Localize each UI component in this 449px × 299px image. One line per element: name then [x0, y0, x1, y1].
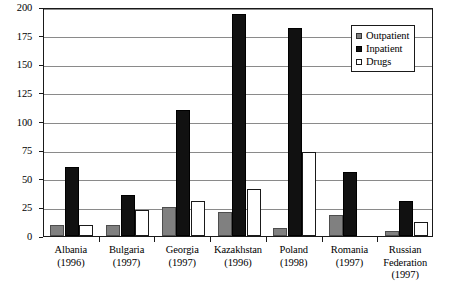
bar-drugs-russian-federation: [414, 222, 428, 236]
category-name: Georgia: [166, 244, 199, 255]
category-name: Kazakhstan: [214, 244, 262, 255]
bar-outpatient-russian-federation: [385, 231, 399, 236]
category-name: Russian Federation: [383, 244, 427, 268]
legend-swatch-inpatient-icon: [356, 46, 362, 52]
bar-drugs-bulgaria: [135, 210, 149, 236]
y-axis-tick-label: 150: [0, 60, 32, 70]
bar-drugs-poland: [302, 152, 316, 236]
y-axis-tick-label: 25: [0, 203, 32, 213]
gridline: [44, 9, 432, 10]
bar-chart: 0255075100125150175200 Albania(1996)Bulg…: [0, 0, 449, 299]
bar-outpatient-romania: [329, 215, 343, 236]
y-axis-tick-label: 175: [0, 32, 32, 42]
y-axis-tick-label: 200: [0, 3, 32, 13]
y-axis-tick-label: 100: [0, 118, 32, 128]
x-axis-tick-mark: [377, 237, 378, 242]
bar-drugs-georgia: [191, 201, 205, 236]
x-axis-tick-mark: [99, 237, 100, 242]
legend-item-outpatient: Outpatient: [356, 29, 409, 42]
x-axis-tick-mark: [154, 237, 155, 242]
x-axis-tick-mark: [322, 237, 323, 242]
y-axis-tick-label: 75: [0, 146, 32, 156]
legend-swatch-outpatient-icon: [356, 33, 362, 39]
category-name: Albania: [55, 244, 88, 255]
bar-outpatient-georgia: [162, 207, 176, 236]
bar-outpatient-poland: [273, 228, 287, 236]
category-name: Bulgaria: [109, 244, 144, 255]
legend-item-inpatient: Inpatient: [356, 42, 409, 55]
bar-drugs-albania: [79, 225, 93, 236]
legend-label: Outpatient: [366, 30, 409, 41]
y-axis-tick-label: 125: [0, 89, 32, 99]
bar-inpatient-poland: [288, 28, 302, 236]
bar-outpatient-kazakhstan: [218, 212, 232, 236]
category-year: (1997): [371, 269, 439, 282]
legend: OutpatientInpatientDrugs: [351, 25, 415, 72]
category-name: Romania: [331, 244, 368, 255]
bar-drugs-kazakhstan: [247, 189, 261, 236]
bar-outpatient-bulgaria: [106, 225, 120, 236]
legend-label: Inpatient: [366, 43, 402, 54]
x-axis-tick-mark: [266, 237, 267, 242]
bar-outpatient-albania: [50, 225, 64, 236]
legend-item-drugs: Drugs: [356, 55, 409, 68]
y-axis-tick-label: 0: [0, 232, 32, 242]
x-axis-tick-mark: [210, 237, 211, 242]
bar-inpatient-kazakhstan: [232, 14, 246, 236]
category-name: Poland: [279, 244, 308, 255]
bar-inpatient-bulgaria: [121, 195, 135, 236]
bar-inpatient-georgia: [176, 110, 190, 236]
legend-swatch-drugs-icon: [356, 59, 362, 65]
y-axis-tick-label: 50: [0, 175, 32, 185]
bar-inpatient-russian-federation: [399, 201, 413, 236]
bar-inpatient-romania: [343, 172, 357, 236]
x-axis-category-label: Russian Federation(1997): [371, 244, 439, 282]
bar-inpatient-albania: [65, 167, 79, 236]
legend-label: Drugs: [366, 56, 391, 67]
